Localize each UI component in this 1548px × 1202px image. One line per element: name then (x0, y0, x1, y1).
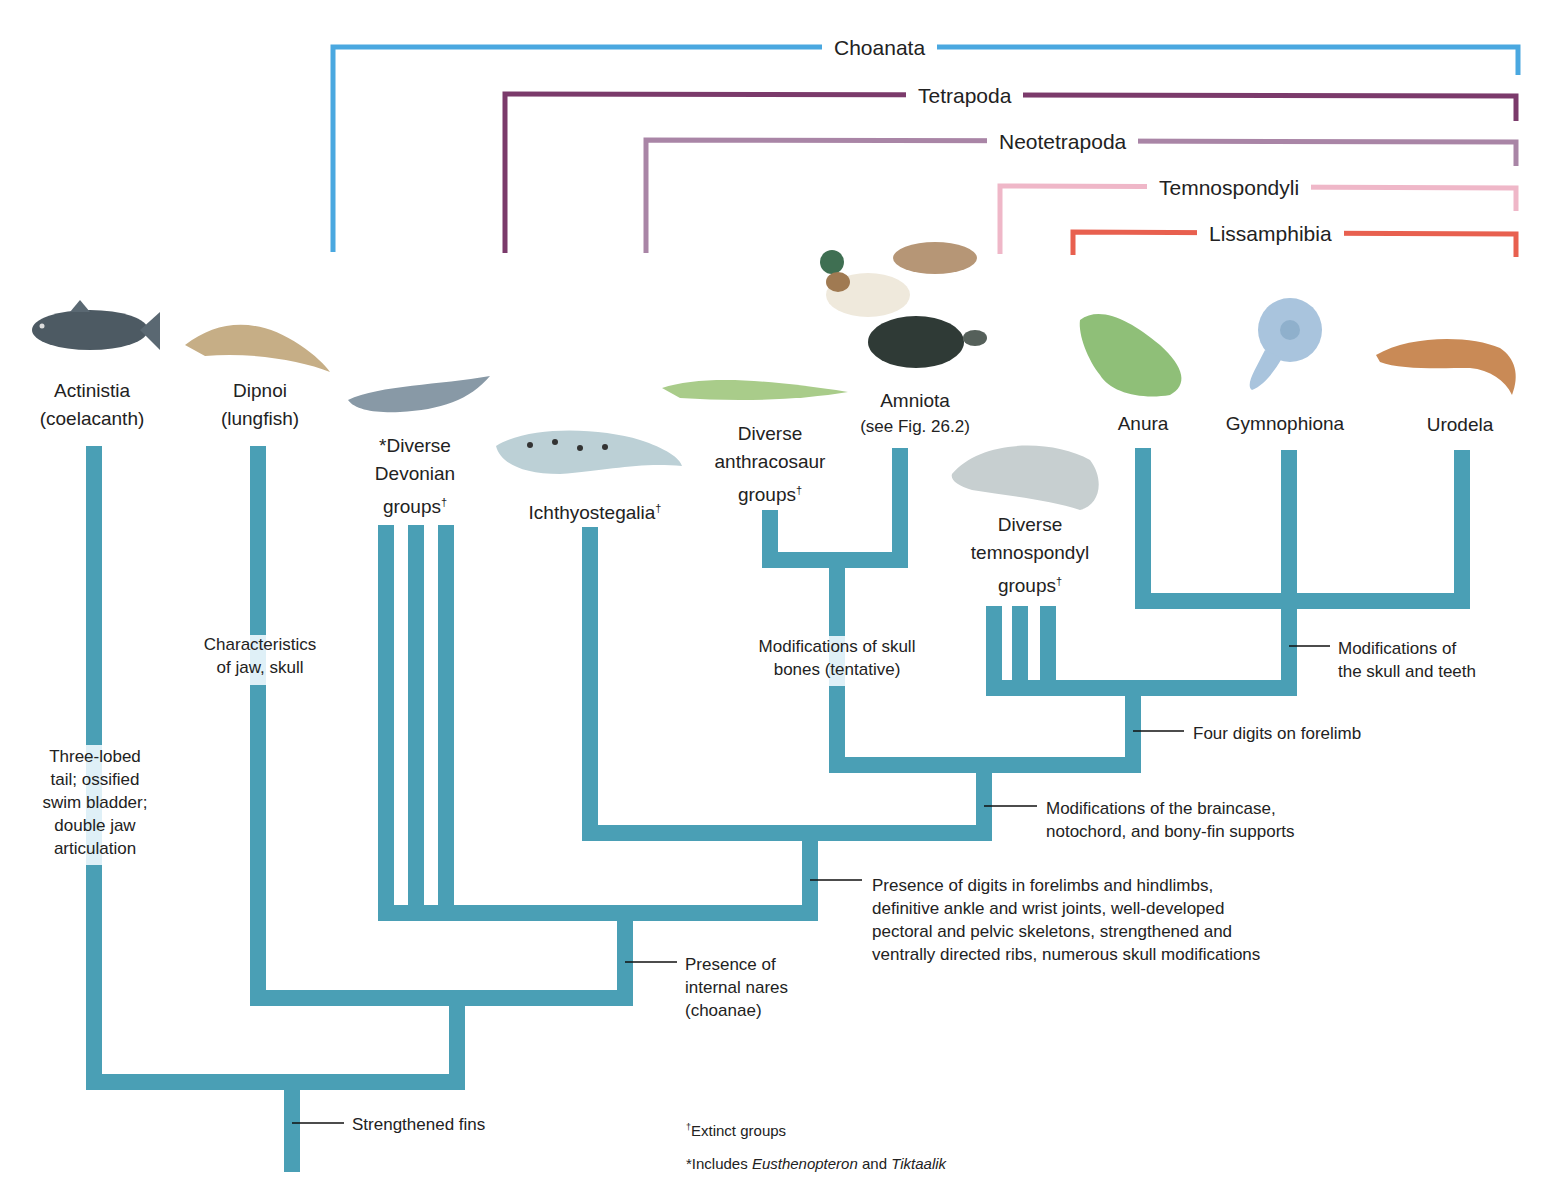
character-anthracosaur-amniota: Modifications of skull bones (tentative) (727, 635, 947, 681)
character-tetrapoda: Presence of digits in forelimbs and hind… (872, 874, 1260, 966)
taxon-reference: (see Fig. 26.2) (840, 414, 990, 440)
character-line: internal nares (685, 976, 788, 999)
footnote-text: and (858, 1155, 891, 1172)
character-line: definitive ankle and wrist joints, well-… (872, 897, 1260, 920)
genus-name: Eusthenopteron (752, 1155, 858, 1172)
devonian-fish-icon (348, 376, 490, 412)
taxon-name-line: anthracosaur (695, 448, 845, 476)
character-line: pectoral and pelvic skeletons, strengthe… (872, 920, 1260, 943)
frog-icon (1080, 314, 1182, 396)
taxon-name-line: groups† (695, 476, 845, 509)
character-line: bones (tentative) (727, 658, 947, 681)
character-line: notochord, and bony-fin supports (1046, 820, 1295, 843)
temnospondyl-icon (952, 446, 1099, 510)
turtle-icon (868, 316, 987, 368)
character-line: tail; ossified (24, 768, 166, 791)
character-line: of jaw, skull (185, 656, 335, 679)
taxon-amniota: Amniota (see Fig. 26.2) (840, 388, 990, 440)
taxon-gymnophiona: Gymnophiona (1205, 410, 1365, 438)
taxon-temnospondyl-groups: Diverse temnospondyl groups† (950, 511, 1110, 600)
taxon-devonian-groups: *Diverse Devonian groups† (345, 432, 485, 521)
anthracosaur-icon (662, 380, 848, 400)
clade-label-lissamphibia: Lissamphibia (1197, 221, 1344, 247)
character-line: Presence of (685, 953, 788, 976)
character-choanae: Presence of internal nares (choanae) (685, 953, 788, 1022)
character-line: Three-lobed (24, 745, 166, 768)
character-line: Modifications of skull (727, 635, 947, 658)
character-line: articulation (24, 837, 166, 860)
taxon-name-text: groups (738, 484, 796, 505)
character-line: swim bladder; (24, 791, 166, 814)
taxon-anthracosaur-groups: Diverse anthracosaur groups† (695, 420, 845, 509)
taxon-name-line: groups† (345, 488, 485, 521)
coelacanth-icon (32, 300, 160, 350)
genus-name: Tiktaalik (891, 1155, 946, 1172)
ichthyostega-icon (496, 431, 682, 474)
taxon-urodela: Urodela (1410, 411, 1510, 439)
character-actinistia: Three-lobed tail; ossified swim bladder;… (24, 745, 166, 860)
character-temnospondyli: Four digits on forelimb (1193, 722, 1361, 745)
character-strengthened-fins: Strengthened fins (352, 1113, 485, 1136)
character-line: double jaw (24, 814, 166, 837)
bracket-tetrapoda (505, 94, 1516, 253)
taxon-name-line: Diverse (695, 420, 845, 448)
footnote-extinct: †Extinct groups (686, 1122, 786, 1139)
clade-label-tetrapoda: Tetrapoda (906, 83, 1023, 109)
footnote-includes: *Includes Eusthenopteron and Tiktaalik (686, 1155, 946, 1172)
taxon-name: Amniota (840, 388, 990, 414)
character-line: Modifications of (1338, 637, 1476, 660)
character-line: Characteristics (185, 633, 335, 656)
taxon-ichthyostegalia: Ichthyostegalia† (505, 494, 685, 527)
character-line: Modifications of the braincase, (1046, 797, 1295, 820)
salamander-icon (1376, 339, 1516, 395)
taxon-name: Actinistia (22, 377, 162, 405)
extinct-dagger: † (655, 502, 661, 514)
taxon-name-line: Devonian (345, 460, 485, 488)
character-dipnoi: Characteristics of jaw, skull (185, 633, 335, 679)
taxon-name-line: *Diverse (345, 432, 485, 460)
character-line: (choanae) (685, 999, 788, 1022)
taxon-name-line: groups† (950, 567, 1110, 600)
lungfish-icon (185, 325, 330, 372)
clade-label-neotetrapoda: Neotetrapoda (987, 129, 1138, 155)
extinct-dagger: † (796, 484, 802, 496)
footnote-text: Extinct groups (691, 1122, 786, 1139)
caecilian-icon (1250, 298, 1322, 390)
taxon-common-name: (coelacanth) (22, 405, 162, 433)
footnote-text: *Includes (686, 1155, 752, 1172)
taxon-common-name: (lungfish) (190, 405, 330, 433)
character-lissamphibia: Modifications of the skull and teeth (1338, 637, 1476, 683)
taxon-name-text: groups (383, 496, 441, 517)
taxon-name-line: Diverse (950, 511, 1110, 539)
mole-icon (893, 242, 977, 274)
taxon-name: Ichthyostegalia (529, 502, 656, 523)
character-line: Presence of digits in forelimbs and hind… (872, 874, 1260, 897)
clade-label-choanata: Choanata (822, 35, 937, 61)
taxon-anura: Anura (1093, 410, 1193, 438)
character-line: the skull and teeth (1338, 660, 1476, 683)
taxon-name-text: groups (998, 575, 1056, 596)
taxon-actinistia: Actinistia (coelacanth) (22, 377, 162, 433)
character-line: ventrally directed ribs, numerous skull … (872, 943, 1260, 966)
taxon-name-line: temnospondyl (950, 539, 1110, 567)
taxon-dipnoi: Dipnoi (lungfish) (190, 377, 330, 433)
extinct-dagger: † (1056, 575, 1062, 587)
extinct-dagger: † (441, 496, 447, 508)
taxon-name: Dipnoi (190, 377, 330, 405)
clade-label-temnospondyli: Temnospondyli (1147, 175, 1311, 201)
bracket-neotetrapoda (646, 140, 1516, 253)
character-neotetrapoda: Modifications of the braincase, notochor… (1046, 797, 1295, 843)
